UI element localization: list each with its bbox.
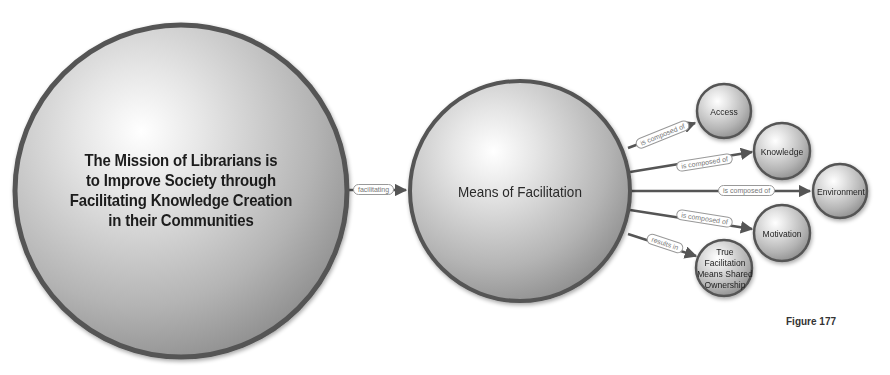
true-facilitation-line-1: True	[716, 246, 733, 257]
access-label: Access	[700, 104, 749, 118]
knowledge-label: Knowledge	[755, 144, 809, 158]
true-facilitation-line-3: Means Shared	[697, 268, 753, 279]
mission-line-2: to Improve Society through	[86, 171, 276, 191]
true-facilitation-line-4: Ownership	[705, 279, 746, 290]
mission-line-3: Facilitating Knowledge Creation	[70, 191, 292, 211]
motivation-label: Motivation	[755, 226, 809, 240]
environment-label: Environment	[813, 184, 869, 198]
mission-line-1: The Mission of Librarians is	[85, 151, 278, 171]
edge-label-facilitating: facilitating	[353, 184, 394, 195]
true-facilitation-line-2: Facilitation	[705, 257, 746, 268]
edge-label-environment: is composed of	[718, 185, 775, 196]
mission-label: The Mission of Librarians is to Improve …	[49, 150, 313, 232]
mission-line-4: in their Communities	[108, 211, 253, 231]
figure-caption: Figure 177	[786, 316, 836, 327]
true-facilitation-label: True Facilitation Means Shared Ownership	[697, 246, 753, 290]
means-label: Means of Facilitation	[439, 180, 601, 202]
